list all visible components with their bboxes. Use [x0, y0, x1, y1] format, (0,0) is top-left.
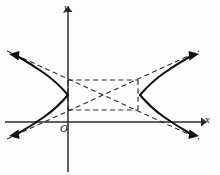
- right-branch-upper-arm: [140, 56, 191, 95]
- x-axis-label: x: [205, 114, 210, 125]
- axes-group: [5, 6, 207, 172]
- right-branch-lower-arrowhead: [189, 130, 200, 140]
- hyperbola-canvas: [0, 0, 220, 175]
- hyperbola-figure: y x O: [0, 0, 220, 175]
- left-branch-upper-arm: [17, 56, 68, 95]
- y-axis-label: y: [64, 2, 69, 13]
- asymptote-group: [7, 51, 199, 139]
- right-branch-upper-arrowhead: [189, 51, 200, 61]
- origin-label: O: [60, 124, 68, 135]
- right-branch-lower-arm: [140, 95, 191, 134]
